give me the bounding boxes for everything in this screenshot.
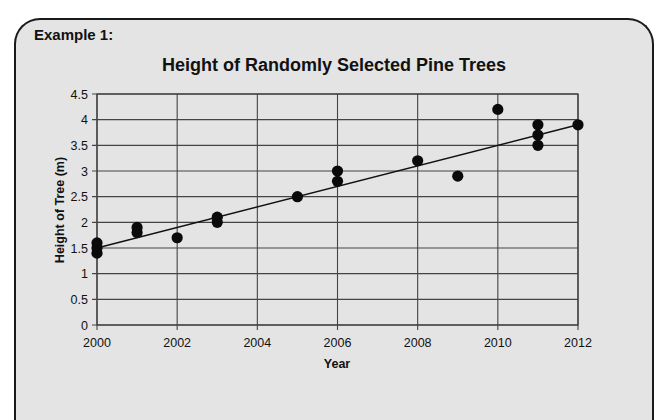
data-point: [332, 165, 343, 176]
data-point: [492, 104, 503, 115]
data-point: [131, 222, 142, 233]
y-tick-label: 2: [81, 216, 88, 230]
data-point: [172, 232, 183, 243]
y-tick-label: 4: [81, 113, 88, 127]
x-axis-ticks: 2000200220042006200820102012: [83, 336, 592, 350]
y-tick-label: 1: [81, 267, 88, 281]
data-point: [91, 237, 102, 248]
x-tick-label: 2002: [163, 336, 191, 350]
data-point: [572, 119, 583, 130]
data-point: [332, 176, 343, 187]
y-tick-label: 4.5: [71, 88, 88, 102]
data-point: [292, 191, 303, 202]
y-tick-label: 0: [81, 319, 88, 333]
y-axis-label: Height of Tree (m): [53, 157, 67, 263]
data-point: [532, 119, 543, 130]
y-tick-label: 2.5: [71, 190, 88, 204]
y-tick-label: 3.5: [71, 139, 88, 153]
data-point: [212, 212, 223, 223]
x-tick-label: 2012: [564, 336, 592, 350]
x-axis-label: Year: [324, 357, 351, 371]
chart-title: Height of Randomly Selected Pine Trees: [162, 55, 506, 75]
y-tick-label: 0.5: [71, 293, 88, 307]
data-point: [532, 129, 543, 140]
data-point: [452, 171, 463, 182]
x-tick-label: 2008: [404, 336, 432, 350]
x-tick-label: 2010: [484, 336, 512, 350]
data-point: [412, 155, 423, 166]
y-tick-label: 3: [81, 165, 88, 179]
x-tick-label: 2000: [83, 336, 111, 350]
y-axis-ticks: 00.511.522.533.544.5: [71, 88, 88, 333]
x-tick-label: 2004: [243, 336, 271, 350]
y-tick-label: 1.5: [71, 242, 88, 256]
chart-grid: [92, 94, 578, 330]
x-tick-label: 2006: [324, 336, 352, 350]
data-point: [532, 140, 543, 151]
